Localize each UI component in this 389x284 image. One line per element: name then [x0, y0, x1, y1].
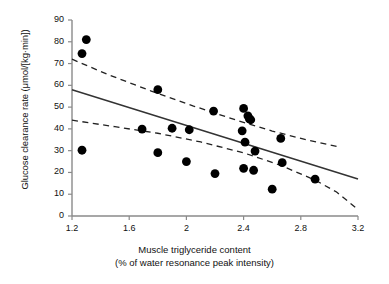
data-point	[276, 134, 285, 143]
data-point	[209, 107, 218, 116]
data-point	[268, 185, 277, 194]
data-point	[78, 49, 87, 58]
x-axis-tick-label: 1.6	[114, 223, 144, 233]
data-point	[185, 125, 194, 134]
data-point	[182, 157, 191, 166]
x-axis-tick-label: 1.2	[57, 223, 87, 233]
data-point	[249, 166, 258, 175]
data-point	[153, 148, 162, 157]
x-axis-tick-label: 2.4	[229, 223, 259, 233]
data-point	[211, 169, 220, 178]
data-point	[239, 164, 248, 173]
regression-line	[72, 90, 358, 179]
data-point	[78, 146, 87, 155]
regression-line-segment	[72, 90, 358, 179]
y-axis-tick-label: 50	[40, 101, 64, 111]
x-axis-tick-label: 3.2	[343, 223, 373, 233]
data-point	[278, 158, 287, 167]
data-point	[82, 35, 91, 44]
data-point	[311, 175, 320, 184]
data-point	[251, 147, 260, 156]
y-axis-tick-label: 20	[40, 166, 64, 176]
y-axis-tick-label: 90	[40, 14, 64, 24]
y-axis-tick-label: 0	[40, 210, 64, 220]
data-point	[138, 125, 147, 134]
y-axis-title: Glucose clearance rate (μmol/[kg·min])	[19, 10, 30, 210]
scatter-chart-figure: 0102030405060708090 1.21.622.42.83.2 Glu…	[0, 0, 389, 284]
x-axis-title-line2: (% of water resonance peak intensity)	[0, 257, 389, 270]
y-axis-tick-label: 10	[40, 188, 64, 198]
data-point	[153, 85, 162, 94]
x-axis-title: Muscle triglyceride content (% of water …	[0, 244, 389, 269]
data-point	[168, 124, 177, 133]
data-point	[246, 115, 255, 124]
data-points-group	[78, 35, 320, 193]
y-axis-tick-label: 80	[40, 36, 64, 46]
y-axis-tick-label: 40	[40, 123, 64, 133]
x-axis-tick-label: 2.8	[286, 223, 316, 233]
data-point	[241, 138, 250, 147]
data-point	[238, 126, 247, 135]
data-point	[239, 104, 248, 113]
y-axis-tick-label: 70	[40, 58, 64, 68]
x-axis-tick-label: 2	[171, 223, 201, 233]
axes-group	[68, 20, 358, 220]
y-axis-tick-label: 60	[40, 79, 64, 89]
y-axis-tick-label: 30	[40, 145, 64, 155]
x-axis-title-line1: Muscle triglyceride content	[0, 244, 389, 257]
